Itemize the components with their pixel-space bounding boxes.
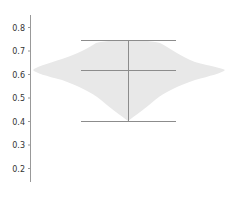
y-tick-label-0.7: 0.7 <box>12 47 25 56</box>
y-tick-label-0.2: 0.2 <box>12 165 25 174</box>
y-tick-label-0.5: 0.5 <box>12 94 25 103</box>
y-tick-label-0.6: 0.6 <box>12 71 25 80</box>
violin-chart: 0.8 0.7 0.6 0.5 0.4 0.3 0.2 <box>0 0 250 197</box>
y-axis-tick-labels: 0.8 0.7 0.6 0.5 0.4 0.3 0.2 <box>12 24 25 174</box>
y-tick-label-0.8: 0.8 <box>12 24 25 33</box>
y-tick-label-0.4: 0.4 <box>12 118 25 127</box>
y-tick-label-0.3: 0.3 <box>12 141 25 150</box>
